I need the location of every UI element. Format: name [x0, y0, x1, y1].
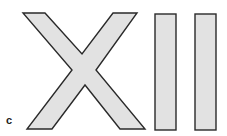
panel-label: c: [6, 115, 12, 126]
letter-i-shape-1: [155, 14, 176, 130]
letter-x-shape: [23, 13, 145, 129]
roman-numeral-figure: c: [0, 0, 227, 136]
letter-i-shape-2: [195, 14, 216, 130]
roman-numeral-xii-graphic: [0, 0, 227, 136]
